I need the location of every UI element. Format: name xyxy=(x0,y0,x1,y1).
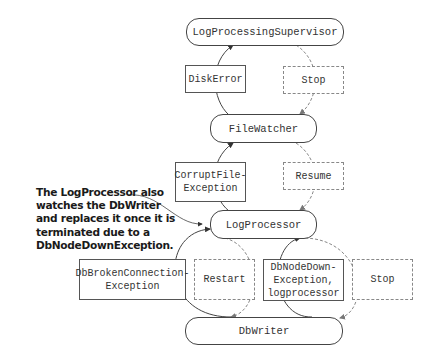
annotation-note: The LogProcessor also watches the DbWrit… xyxy=(36,186,176,252)
message-stop-top: Stop xyxy=(283,66,344,94)
node-log-processor: LogProcessor xyxy=(210,210,317,239)
message-stop-bottom: Stop xyxy=(352,259,413,300)
node-file-watcher: FileWatcher xyxy=(210,114,317,143)
message-resume: Resume xyxy=(283,162,344,190)
message-disk-error: DiskError xyxy=(185,65,246,93)
message-corrupt-file-exception: CorruptFile- Exception xyxy=(175,162,246,202)
node-db-writer: DbWriter xyxy=(185,317,343,345)
message-db-node-down-exception: DbNodeDown- Exception, logprocessor xyxy=(263,259,344,301)
message-db-broken-connection-exception: DbBrokenConnection- Exception xyxy=(79,259,186,300)
node-log-processing-supervisor: LogProcessingSupervisor xyxy=(186,18,344,46)
message-restart: Restart xyxy=(194,259,255,300)
